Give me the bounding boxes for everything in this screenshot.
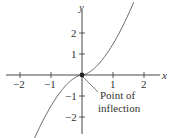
annotation-line-2: inflection [98, 102, 141, 114]
y-tick-label: 2 [71, 27, 77, 39]
plot-svg: −2 −1 1 2 2 1 −1 −2 x y Point of inflect… [0, 0, 176, 138]
x-tick-label: −1 [44, 78, 56, 90]
x-axis-label: x [161, 69, 167, 81]
inflection-point [80, 73, 85, 78]
y-tick-label: −2 [65, 111, 77, 123]
inflection-diagram: −2 −1 1 2 2 1 −1 −2 x y Point of inflect… [0, 0, 176, 138]
y-tick-label: −1 [65, 90, 77, 102]
x-tick-label: 2 [141, 78, 147, 90]
x-tick-label: −2 [13, 78, 25, 90]
y-tick-label: 1 [71, 48, 77, 60]
y-axis-label: y [78, 1, 84, 13]
annotation-line-1: Point of [100, 89, 135, 101]
annotation-leader [83, 77, 98, 92]
